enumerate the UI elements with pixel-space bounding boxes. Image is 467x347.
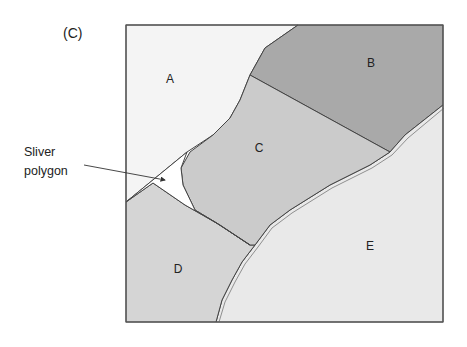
region-b-label: B [367,56,375,70]
region-e-label: E [366,239,374,253]
region-c-label: C [255,141,264,155]
polygon-map: A B C D E [0,0,467,347]
region-d-label: D [174,262,183,276]
region-a-label: A [166,72,174,86]
